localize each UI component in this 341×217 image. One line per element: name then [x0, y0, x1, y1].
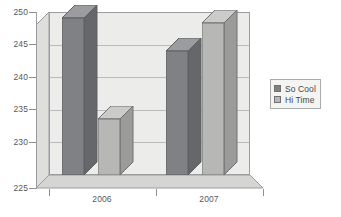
y-tick-label: 225 [2, 184, 28, 193]
x-tick-label: 2007 [185, 194, 233, 204]
y-tick-label: 250 [2, 8, 28, 17]
legend-item-so-cool[interactable]: So Cool [274, 83, 316, 94]
x-tick-mark [263, 189, 264, 196]
y-tick-label: 235 [2, 105, 28, 114]
x-tick-label: 2006 [78, 194, 126, 204]
x-tick-mark [156, 189, 157, 196]
y-tick-mark [29, 188, 36, 189]
legend-item-hi-time[interactable]: Hi Time [274, 94, 316, 105]
y-tick-label: 230 [2, 138, 28, 147]
y-tick-mark [29, 109, 36, 110]
bar-chart: 250 245 240 235 230 225 2006 2007 So Coo… [0, 0, 341, 217]
legend-label: So Cool [285, 84, 316, 94]
y-tick-mark [29, 44, 36, 45]
y-tick-label: 245 [2, 40, 28, 49]
legend-swatch-icon [274, 96, 281, 103]
legend-label: Hi Time [285, 95, 315, 105]
bar-hi-time-2006-shape [98, 106, 134, 175]
legend: So Cool Hi Time [270, 79, 321, 109]
bar-hi-time-2007[interactable] [202, 23, 225, 175]
bar-hi-time-2006[interactable] [98, 119, 121, 175]
bar-so-cool-2006-shape [62, 5, 98, 175]
y-tick-mark [29, 142, 36, 143]
bar-hi-time-2007-shape [202, 10, 238, 175]
y-tick-label: 240 [2, 73, 28, 82]
bar-so-cool-2007-shape [166, 38, 202, 175]
x-tick-mark [49, 189, 50, 196]
bar-so-cool-2007[interactable] [166, 51, 189, 175]
bar-so-cool-2006[interactable] [62, 18, 85, 175]
legend-swatch-icon [274, 85, 281, 92]
y-axis-spine [36, 12, 37, 189]
y-axis: 250 245 240 235 230 225 [0, 0, 28, 217]
y-tick-mark [29, 12, 36, 13]
y-tick-mark [29, 77, 36, 78]
